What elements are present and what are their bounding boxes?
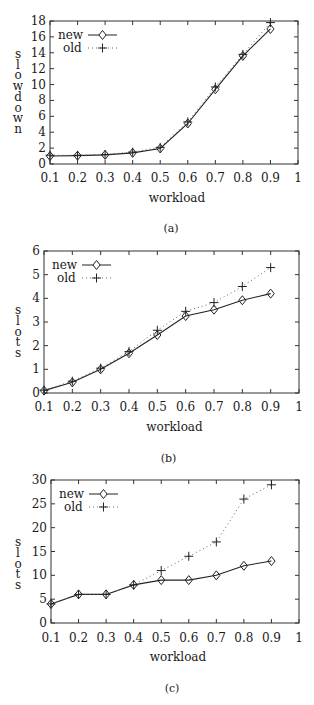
x-tick-label: 0.2	[68, 171, 87, 185]
plot-frame	[44, 251, 299, 393]
plus-marker	[181, 307, 190, 316]
diamond-marker	[267, 289, 274, 298]
y-tick-label: 18	[31, 14, 46, 28]
x-tick-label: 0.3	[91, 400, 110, 414]
plus-marker	[266, 18, 275, 27]
x-tick-label: 0.9	[261, 171, 280, 185]
x-tick-label: 0.3	[97, 631, 116, 645]
y-tick-label: 8	[38, 93, 46, 107]
y-axis-label-letter: n	[14, 122, 22, 136]
plot-frame	[51, 480, 299, 623]
plus-marker	[102, 590, 111, 599]
plus-marker	[73, 151, 82, 160]
y-axis-label-letter: s	[15, 578, 21, 592]
x-tick-label: 0.6	[176, 400, 195, 414]
plus-marker	[47, 599, 56, 608]
y-tick-label: 16	[31, 30, 46, 44]
x-tick-label: 0.4	[124, 631, 143, 645]
plus-marker	[212, 537, 221, 546]
y-tick-label: 2	[38, 141, 46, 155]
series-line-old	[51, 485, 271, 604]
legend-label-old: old	[57, 271, 76, 285]
plus-marker	[156, 143, 165, 152]
figure-caption: (c)	[165, 682, 180, 695]
x-tick-label: 0.5	[151, 171, 170, 185]
legend-plus-icon	[99, 503, 108, 512]
plus-marker	[101, 150, 110, 159]
legend-label-new: new	[52, 258, 78, 272]
y-tick-label: 2	[32, 339, 40, 353]
chart-c: 0.10.20.30.40.50.60.70.80.91051015202530…	[14, 473, 302, 695]
y-axis-label: slowdown	[13, 47, 24, 136]
figure-caption: (b)	[161, 452, 177, 465]
y-tick-label: 12	[31, 62, 46, 76]
plus-marker	[267, 480, 276, 489]
legend-diamond-icon	[99, 31, 106, 40]
x-tick-label: 0.7	[204, 400, 223, 414]
x-tick-label: 0.3	[96, 171, 115, 185]
y-tick-label: 4	[38, 125, 46, 139]
plus-marker	[68, 377, 77, 386]
x-tick-label: 0.8	[233, 400, 252, 414]
x-tick-label: 0.7	[207, 631, 226, 645]
x-tick-label: 0.4	[119, 400, 138, 414]
y-tick-label: 14	[31, 46, 47, 60]
y-tick-label: 20	[32, 521, 47, 535]
plus-marker	[238, 282, 247, 291]
plus-marker	[266, 263, 275, 272]
series-line-new	[44, 294, 271, 391]
x-axis-label: workload	[150, 650, 207, 664]
legend: newold	[59, 487, 118, 514]
y-tick-label: 30	[32, 473, 47, 487]
x-tick-label: 0.1	[34, 400, 53, 414]
legend-label-new: new	[58, 28, 84, 42]
x-tick-label: 0.6	[178, 171, 197, 185]
x-tick-label: 1	[294, 171, 302, 185]
x-tick-label: 0.9	[262, 631, 281, 645]
x-tick-label: 0.6	[179, 631, 198, 645]
series-line-new	[50, 29, 270, 156]
y-tick-label: 5	[32, 268, 40, 282]
plus-marker	[157, 566, 166, 575]
x-tick-label: 0.1	[41, 631, 60, 645]
y-tick-label: 0	[32, 386, 40, 400]
plot-frame	[50, 21, 298, 164]
plus-marker	[239, 495, 248, 504]
legend-plus-icon	[98, 44, 107, 53]
x-tick-label: 0.4	[123, 171, 142, 185]
plus-marker	[128, 148, 137, 157]
x-tick-label: 0.5	[148, 400, 167, 414]
legend-plus-icon	[92, 274, 101, 283]
legend-diamond-icon	[100, 490, 107, 499]
y-axis-label: slots	[14, 303, 21, 360]
legend-label-old: old	[64, 500, 83, 514]
x-tick-label: 1	[295, 400, 303, 414]
y-axis-label-letter: s	[15, 346, 21, 360]
plus-marker	[74, 590, 83, 599]
legend-label-old: old	[63, 41, 82, 55]
y-axis-label: slots	[14, 535, 21, 592]
figure-caption: (a)	[163, 222, 178, 235]
x-tick-label: 0.2	[63, 400, 82, 414]
plus-marker	[210, 298, 219, 307]
series-line-old	[50, 23, 270, 156]
x-axis-label: workload	[149, 191, 206, 205]
y-tick-label: 15	[32, 545, 47, 559]
legend-diamond-icon	[93, 261, 100, 270]
figure: 0.10.20.30.40.50.60.70.80.91024681012141…	[0, 0, 314, 705]
plus-marker	[184, 552, 193, 561]
y-tick-label: 3	[32, 315, 40, 329]
x-tick-label: 1	[295, 631, 303, 645]
y-tick-label: 4	[32, 291, 40, 305]
plus-marker	[129, 580, 138, 589]
y-tick-label: 0	[39, 616, 47, 630]
legend-label-new: new	[59, 487, 85, 501]
chart-b: 0.10.20.30.40.50.60.70.80.910123456workl…	[14, 244, 302, 465]
x-axis-label: workload	[146, 420, 203, 434]
chart-a: 0.10.20.30.40.50.60.70.80.91024681012141…	[13, 14, 302, 235]
plus-marker	[238, 50, 247, 59]
y-tick-label: 10	[31, 78, 46, 92]
y-tick-label: 0	[38, 157, 46, 171]
x-tick-label: 0.1	[40, 171, 59, 185]
legend: newold	[58, 28, 117, 55]
